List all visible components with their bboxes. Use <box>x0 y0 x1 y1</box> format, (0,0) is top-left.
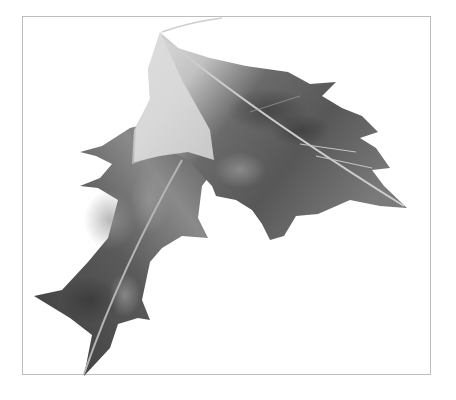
holly-leaf-illustration <box>0 0 456 400</box>
stem <box>162 18 222 32</box>
